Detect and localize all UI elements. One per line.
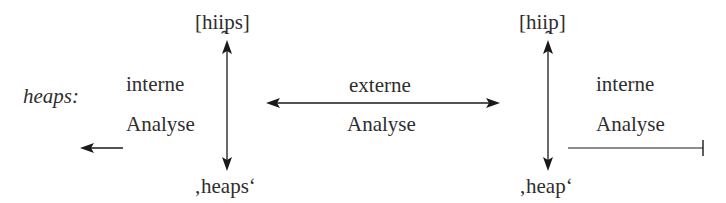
right-input-line-bar-icon bbox=[568, 140, 703, 156]
right-vertical-double-arrow-icon bbox=[543, 40, 553, 171]
left-output-arrow-icon bbox=[80, 143, 123, 153]
left-vertical-double-arrow-icon bbox=[222, 40, 232, 171]
external-horizontal-double-arrow-icon bbox=[266, 98, 500, 108]
morphology-analysis-diagram: heaps: [hii̯ps] interne Analyse ‚heaps‘ … bbox=[0, 0, 726, 203]
arrows-layer bbox=[0, 0, 726, 203]
